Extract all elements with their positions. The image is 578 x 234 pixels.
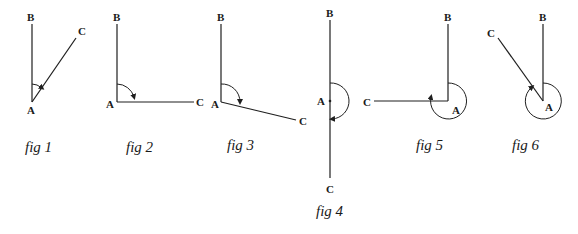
figure-5: B C A fig 5 <box>363 11 467 153</box>
angle-arc <box>117 84 134 97</box>
figure-6: B C A fig 6 <box>487 11 561 153</box>
caption-fig2: fig 2 <box>126 139 154 155</box>
figure-4: B A C fig 4 <box>316 7 349 219</box>
caption-fig3: fig 3 <box>227 137 254 153</box>
label-a: A <box>27 104 35 116</box>
angle-arc <box>221 84 240 102</box>
figure-2: B C A fig 2 <box>106 11 204 155</box>
label-b: B <box>539 11 547 23</box>
caption-fig4: fig 4 <box>316 203 344 219</box>
figure-3: B C A fig 3 <box>211 11 307 153</box>
caption-fig5: fig 5 <box>416 137 444 153</box>
label-c: C <box>78 25 86 37</box>
label-b: B <box>444 11 452 23</box>
label-b: B <box>326 7 334 19</box>
caption-fig1: fig 1 <box>25 139 52 155</box>
ray-ac <box>498 38 543 101</box>
label-a: A <box>452 104 460 116</box>
caption-fig6: fig 6 <box>512 137 540 153</box>
label-c: C <box>326 183 334 195</box>
vertex-dot <box>329 100 332 103</box>
label-c: C <box>196 96 204 108</box>
label-a: A <box>545 101 553 113</box>
label-c: C <box>363 96 371 108</box>
label-c: C <box>299 115 307 127</box>
label-b: B <box>217 11 225 23</box>
ray-ac <box>32 38 76 102</box>
angle-arc <box>32 84 42 88</box>
label-c: C <box>487 27 495 39</box>
label-b: B <box>27 11 35 23</box>
label-a: A <box>317 95 325 107</box>
label-a: A <box>211 98 219 110</box>
figure-1: B C A fig 1 <box>25 11 86 155</box>
label-b: B <box>113 11 121 23</box>
label-a: A <box>106 98 114 110</box>
angle-arc <box>330 83 349 119</box>
angles-diagram: B C A fig 1 B C A fig 2 B C A fig 3 B A … <box>0 0 578 234</box>
ray-ac <box>221 102 296 120</box>
